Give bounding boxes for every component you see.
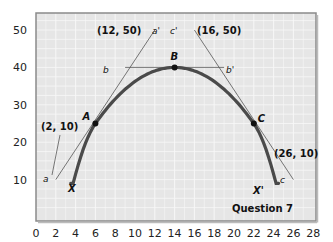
x-tick-label: 18 xyxy=(207,227,221,240)
y-tick-label: 20 xyxy=(13,136,27,149)
x-axis-ticks: 0246810121416182022242628 xyxy=(33,227,321,240)
point-label-b: B xyxy=(171,51,179,62)
y-tick-label: 30 xyxy=(13,99,27,112)
annotation: c xyxy=(280,175,285,185)
x-tick-label: 26 xyxy=(286,227,300,240)
x-tick-label: 20 xyxy=(227,227,241,240)
annotation: (12, 50) xyxy=(97,25,141,36)
y-tick-label: 50 xyxy=(13,24,27,37)
annotation: X' xyxy=(252,185,264,196)
x-tick-label: 14 xyxy=(168,227,182,240)
y-tick-label: 40 xyxy=(13,61,27,74)
point-b xyxy=(172,64,178,70)
annotation: a xyxy=(43,174,49,184)
y-axis-ticks: 1020304050 xyxy=(13,24,27,187)
point-label-a: A xyxy=(81,111,90,122)
annotation: (16, 50) xyxy=(197,25,241,36)
y-tick-label: 10 xyxy=(13,174,27,187)
annotation: a' xyxy=(152,26,160,36)
annotation: b' xyxy=(226,65,234,75)
annotation: b xyxy=(103,65,109,75)
point-a xyxy=(92,121,98,127)
x-tick-label: 2 xyxy=(52,227,59,240)
x-tick-label: 16 xyxy=(187,227,201,240)
annotation: (26, 10) xyxy=(274,148,318,159)
x-tick-label: 4 xyxy=(72,227,79,240)
point-label-c: C xyxy=(258,113,266,124)
point-c xyxy=(251,121,257,127)
x-tick-label: 28 xyxy=(306,227,320,240)
x-tick-label: 12 xyxy=(148,227,162,240)
x-tick-label: 6 xyxy=(92,227,99,240)
x-tick-label: 10 xyxy=(128,227,142,240)
annotation: X xyxy=(67,183,77,194)
x-tick-label: 24 xyxy=(267,227,281,240)
x-tick-label: 8 xyxy=(112,227,119,240)
chart: ABC 0246810121416182022242628 1020304050… xyxy=(0,0,333,242)
x-tick-label: 22 xyxy=(247,227,261,240)
chart-caption: Question 7 xyxy=(232,203,293,214)
x-tick-label: 0 xyxy=(33,227,40,240)
annotation: c' xyxy=(170,26,177,36)
annotation: (2, 10) xyxy=(41,121,78,132)
